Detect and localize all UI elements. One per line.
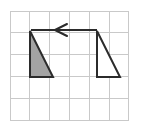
figure-canvas — [0, 0, 145, 126]
geometry-figure — [0, 0, 145, 126]
